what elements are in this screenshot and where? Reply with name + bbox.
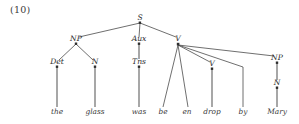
terminal-glass: glass	[85, 107, 104, 116]
terminal-stems	[57, 67, 139, 107]
node-label-n-subject: N	[91, 57, 99, 66]
branch-v-to-be	[163, 45, 178, 107]
branches-from-v-top	[163, 45, 274, 107]
node-label-det: Det	[49, 57, 65, 66]
terminal-be: be	[158, 107, 168, 116]
branch-v-to-by	[178, 45, 243, 107]
node-label-np-object: NP	[270, 53, 284, 62]
node-label-n-object: N	[273, 78, 281, 87]
node-label-np-subject: NP	[69, 34, 83, 43]
branch-np-to-n	[76, 44, 93, 60]
terminal-by: by	[239, 107, 249, 116]
terminal-labels: the glass was be en drop by Mary	[51, 107, 288, 116]
dot-v-top	[177, 43, 180, 46]
node-label-s: S	[137, 13, 142, 22]
node-label-tns: Tns	[132, 57, 146, 66]
terminal-drop: drop	[203, 107, 221, 116]
node-dots	[56, 22, 278, 89]
node-label-v-lower: V	[209, 59, 216, 68]
tree-canvas: S NP Aux V Det N Tns V NP N the glass wa…	[0, 0, 299, 124]
branches-from-s	[79, 23, 176, 37]
terminal-was: was	[132, 107, 147, 116]
branch-v-to-en	[178, 45, 188, 107]
branches-from-np-subject	[59, 44, 93, 60]
node-label-aux: Aux	[131, 34, 147, 43]
terminal-en: en	[182, 107, 191, 116]
node-label-v-top: V	[175, 34, 182, 43]
branch-v-to-np-object	[178, 45, 274, 56]
node-labels: S NP Aux V Det N Tns V NP N	[49, 13, 284, 87]
syntax-tree-figure: (10)	[0, 0, 299, 124]
terminal-the: the	[51, 107, 64, 116]
terminal-mary: Mary	[266, 107, 288, 116]
branch-v-to-v-lower	[178, 45, 210, 62]
